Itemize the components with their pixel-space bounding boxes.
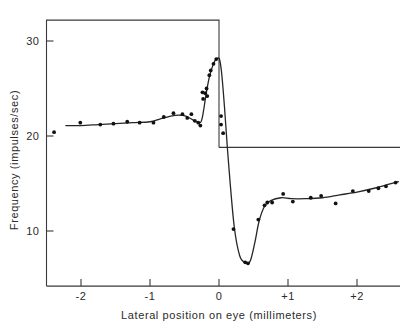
data-point [319,194,323,198]
data-point [205,94,209,98]
data-point [376,186,380,190]
data-point [207,73,211,77]
x-tick-label: 0 [216,290,223,302]
data-point [214,57,218,61]
plot-frame [47,20,400,286]
data-point [281,192,285,196]
data-point [246,261,250,265]
data-point [270,201,274,205]
x-tick-label: +1 [281,290,295,302]
data-point [219,123,223,127]
y-tick-label: 10 [26,225,39,237]
data-point [384,184,388,188]
data-point [219,114,223,118]
y-tick-label: 20 [26,130,39,142]
x-tick-label: -1 [145,290,156,302]
data-point [78,121,82,125]
y-tick-label: 30 [26,35,39,47]
x-tick-label: +2 [350,290,364,302]
data-point [205,87,209,91]
figure-panel: 102030 -2-10+1+2 Lateral position on eye… [0,0,400,330]
data-point [152,121,156,125]
plot-frame-outline [47,20,400,286]
data-point [221,131,225,135]
data-point [334,202,338,206]
data-point [291,200,295,204]
x-axis-title: Lateral position on eye (millimeters) [121,309,317,321]
data-point [185,116,189,120]
y-axis-title: Frequency (impulses/sec) [8,90,20,230]
data-point [263,203,267,207]
data-point [112,122,116,126]
data-point [201,97,205,101]
data-layer [52,57,398,265]
x-tick-label: -2 [76,290,87,302]
data-point [98,123,102,127]
data-point [309,196,313,200]
data-point [265,201,269,205]
fitted-curve [66,58,399,264]
data-point [162,115,166,119]
data-point [351,189,355,193]
data-point [209,69,213,73]
data-point [198,124,202,128]
data-point [190,112,194,116]
data-point [52,130,56,134]
x-axis-ticks: -2-10+1+2 [76,279,364,302]
data-point [367,189,371,193]
data-point [256,218,260,222]
data-point [394,181,398,185]
data-point [193,119,197,123]
data-point [212,62,216,66]
data-point [181,112,185,116]
y-axis-ticks: 102030 [26,35,53,237]
data-points [52,57,397,265]
data-point [125,120,129,124]
data-point [232,227,236,231]
data-point [138,121,142,125]
data-point [172,111,176,115]
